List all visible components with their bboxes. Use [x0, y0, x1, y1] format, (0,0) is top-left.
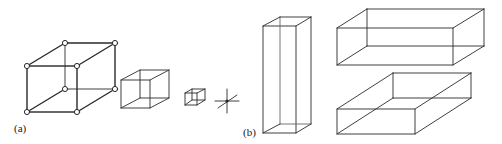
medium-cube: [121, 70, 169, 108]
panel-b-label: (b): [243, 126, 256, 138]
small-cube: [185, 89, 205, 105]
cube-with-vertex-atoms: [27, 43, 115, 112]
wide-flat-prism: [337, 73, 471, 134]
tall-prism: [263, 17, 311, 133]
panel-a-label: (a): [14, 122, 26, 134]
diagram-canvas: [0, 0, 502, 144]
long-flat-prism: [337, 9, 484, 65]
vertex-atoms: [24, 40, 117, 114]
point-cross: [215, 89, 239, 113]
